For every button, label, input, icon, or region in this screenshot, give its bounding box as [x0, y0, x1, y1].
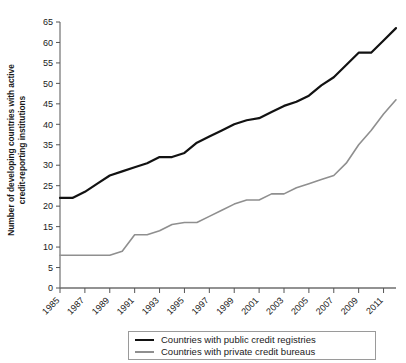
legend-swatch-public-icon	[135, 339, 154, 341]
line-chart-plot: 05101520253035404550556065 1985198719891…	[0, 0, 406, 331]
y-axis-tick-label: 35	[43, 140, 53, 150]
x-axis-tick-label: 1997	[190, 295, 211, 316]
y-axis-tick-label: 65	[43, 17, 53, 27]
series-line-private	[60, 100, 396, 256]
x-axis-tick-label: 1999	[214, 295, 235, 316]
x-axis: 1985198719891991199319951997199920012003…	[40, 288, 396, 317]
y-axis-tick-label: 20	[43, 201, 53, 211]
y-axis-tick-label: 25	[43, 181, 53, 191]
legend-item-private: Countries with private credit bureaus	[135, 346, 375, 358]
x-axis-tick-label: 2011	[364, 295, 385, 316]
y-axis-tick-label: 45	[43, 99, 53, 109]
x-axis-tick-label: 2003	[264, 295, 285, 316]
y-axis-tick-label: 50	[43, 79, 53, 89]
x-axis-tick-label: 1995	[165, 295, 186, 316]
x-axis-tick-label: 1993	[140, 295, 161, 316]
y-axis-tick-label: 40	[43, 120, 53, 130]
x-axis-tick-label: 1991	[115, 295, 136, 316]
y-axis-title: Number of developing countries with acti…	[0, 0, 34, 300]
legend-label-public: Countries with public credit registries	[161, 334, 316, 346]
y-axis-tick-label: 10	[43, 242, 53, 252]
x-axis-tick-label: 2005	[289, 295, 310, 316]
legend-item-public: Countries with public credit registries	[135, 334, 375, 346]
x-axis-tick-label: 1989	[90, 295, 111, 316]
x-axis-tick-label: 2009	[339, 295, 360, 316]
x-axis-tick-label: 2001	[239, 295, 260, 316]
chart-legend: Countries with public credit registries …	[128, 331, 376, 360]
y-axis: 05101520253035404550556065	[43, 17, 60, 293]
x-axis-tick-label: 2007	[314, 295, 335, 316]
y-axis-tick-label: 5	[48, 263, 53, 273]
y-axis-tick-label: 55	[43, 58, 53, 68]
y-axis-title-line1: Number of developing countries with acti…	[6, 64, 17, 235]
y-axis-tick-label: 30	[43, 160, 53, 170]
legend-swatch-private-icon	[135, 351, 154, 353]
x-axis-tick-label: 1985	[40, 295, 61, 316]
y-axis-title-line2: credit-reporting institutions	[17, 64, 28, 235]
y-axis-tick-label: 60	[43, 38, 53, 48]
x-axis-tick-label: 1987	[65, 295, 86, 316]
y-axis-tick-label: 0	[48, 283, 53, 293]
series-line-public	[60, 28, 396, 198]
chart-container: Number of developing countries with acti…	[0, 0, 406, 363]
legend-label-private: Countries with private credit bureaus	[161, 346, 315, 358]
y-axis-tick-label: 15	[43, 222, 53, 232]
data-series-group	[60, 28, 396, 255]
